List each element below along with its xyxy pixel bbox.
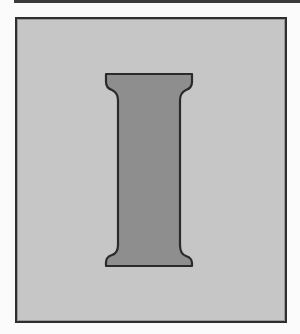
letter-i-shape xyxy=(106,74,192,266)
letter-i-glyph xyxy=(0,0,300,334)
